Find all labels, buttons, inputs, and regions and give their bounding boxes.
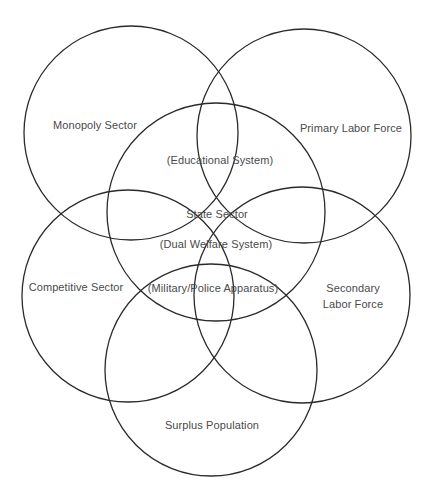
competitive-sector-label: Competitive Sector	[29, 281, 124, 293]
educational-system-label: (Educational System)	[167, 154, 274, 166]
monopoly-sector-label: Monopoly Sector	[53, 119, 137, 131]
state-sector-label: State Sector	[186, 208, 248, 220]
surplus-population-label: Surplus Population	[165, 419, 259, 431]
venn-diagram: Monopoly Sector Primary Labor Force (Edu…	[0, 0, 428, 491]
secondary-labor-force-label-line2: Labor Force	[323, 298, 383, 310]
primary-labor-force-label: Primary Labor Force	[300, 122, 402, 134]
dual-welfare-system-label: (Dual Welfare System)	[160, 238, 273, 250]
secondary-labor-force-label-line1: Secondary	[326, 282, 380, 294]
military-police-apparatus-label: (Military/Police Apparatus)	[148, 282, 278, 294]
competitive-sector-circle	[22, 190, 234, 402]
